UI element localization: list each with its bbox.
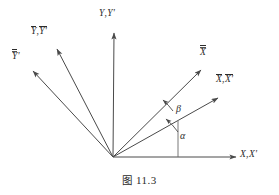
label-x-axis-prime: X' [249, 149, 257, 159]
label-x-double-bar-base: X [200, 45, 206, 58]
figure-caption-prefix: 图 [122, 174, 133, 186]
label-x-bar-base: X [216, 74, 222, 85]
label-angle-alpha: α [180, 131, 185, 141]
figure-container: Y,Y' Y,Y' Y' X X,X' X,X' α β 图 11.3 [0, 0, 279, 195]
label-y-double-bar-base: Y [12, 49, 17, 62]
y-bar-ray [57, 49, 113, 157]
label-x-double-bar: X [200, 45, 206, 58]
label-y-bar-prime: Y' [39, 26, 47, 37]
label-x-bar: X,X' [216, 74, 233, 85]
label-x-axis: X,X' [240, 150, 257, 160]
label-x-bar-prime: X' [225, 74, 233, 85]
label-y-bar: Y,Y' [31, 26, 47, 37]
x-dbar-ray [113, 70, 201, 157]
x-bar-ray [113, 98, 218, 157]
y-dbar-ray [33, 71, 113, 157]
figure-caption: 图 11.3 [0, 172, 279, 187]
label-y-bar-base: Y [31, 26, 36, 37]
label-y-double-bar: Y' [12, 49, 20, 62]
label-y-axis-prime: Y' [107, 8, 115, 18]
y-axis-ray [113, 33, 114, 157]
label-y-double-bar-prime: ' [17, 51, 19, 61]
label-y-axis: Y,Y' [99, 9, 115, 19]
figure-caption-number: 11.3 [136, 174, 157, 186]
label-angle-beta: β [176, 104, 181, 114]
